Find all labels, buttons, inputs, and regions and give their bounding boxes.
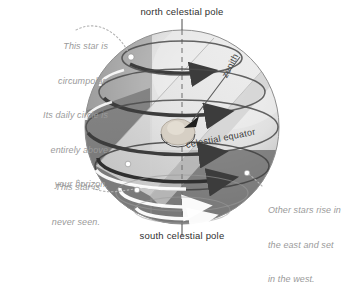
annotation-rise-and-set: Other stars rise in the east and set in … bbox=[268, 182, 352, 286]
annotation-line: in the west. bbox=[268, 274, 352, 286]
star-marker-never-seen bbox=[134, 187, 140, 193]
star-marker-equator bbox=[125, 161, 131, 167]
south-celestial-pole-label: south celestial pole bbox=[114, 230, 250, 241]
star-marker-circumpolar bbox=[128, 54, 134, 60]
annotation-line: Other stars rise in bbox=[268, 205, 352, 217]
annotation-never-seen: This star is never seen. bbox=[8, 159, 100, 251]
annotation-line: Its daily circle is bbox=[8, 110, 108, 122]
annotation-line: never seen. bbox=[8, 217, 100, 229]
annotation-line: the east and set bbox=[268, 240, 352, 252]
annotation-line: This star is bbox=[8, 41, 108, 53]
star-marker-rise-set bbox=[244, 170, 250, 176]
annotation-line: circumpolar. bbox=[8, 76, 108, 88]
annotation-line: This star is bbox=[8, 182, 100, 194]
north-celestial-pole-label: north celestial pole bbox=[114, 6, 250, 17]
annotation-line: entirely above bbox=[8, 145, 108, 157]
